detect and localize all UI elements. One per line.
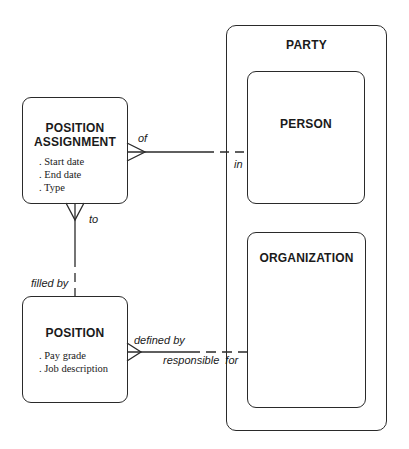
- entity-position-assignment[interactable]: POSITION ASSIGNMENT Start date End date …: [22, 97, 128, 204]
- entity-title: POSITION: [23, 326, 127, 341]
- label-responsible-for: responsible for: [163, 354, 238, 366]
- label-to: to: [89, 213, 98, 225]
- attribute-job-description: Job description: [39, 362, 108, 375]
- attribute-type: Type: [39, 181, 84, 194]
- entity-person[interactable]: PERSON: [247, 71, 365, 204]
- entity-title: PARTY: [227, 38, 386, 53]
- entity-organization[interactable]: ORGANIZATION: [247, 232, 366, 408]
- attribute-pay-grade: Pay grade: [39, 349, 108, 362]
- attribute-start-date: Start date: [39, 155, 84, 168]
- entity-title-line1: POSITION: [23, 121, 127, 136]
- entity-title: ORGANIZATION: [248, 251, 365, 266]
- label-filled-by: filled by: [31, 277, 68, 289]
- attribute-end-date: End date: [39, 168, 84, 181]
- entity-title: PERSON: [248, 117, 364, 132]
- entity-title-line2: ASSIGNMENT: [23, 135, 127, 150]
- attribute-list: Pay grade Job description: [39, 349, 108, 375]
- label-defined-by: defined by: [134, 334, 185, 346]
- relationship-assignment-position: [66, 203, 84, 296]
- attribute-list: Start date End date Type: [39, 155, 84, 194]
- label-of: of: [138, 132, 147, 144]
- entity-position[interactable]: POSITION Pay grade Job description: [22, 296, 128, 403]
- label-in: in: [234, 158, 243, 170]
